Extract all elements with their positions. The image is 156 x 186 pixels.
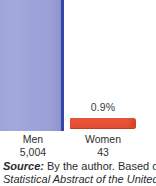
bar-women	[70, 118, 136, 129]
bar-women-end-shading	[128, 118, 136, 129]
category-name-men: Men	[2, 133, 64, 146]
category-value-men: 5,004	[2, 146, 64, 159]
bar-women-percent-label: 0.9%	[70, 101, 136, 113]
source-line-2-text: Statistical Abstract of the United	[3, 173, 156, 186]
category-name-women: Women	[70, 133, 136, 146]
bar-men	[0, 0, 63, 131]
chart-figure-crop: 0.9% Men 5,004 Women 43 Source: By the a…	[0, 0, 156, 185]
bar-men-right-edge	[61, 0, 64, 131]
source-note: Source: By the author. Based on Statisti…	[3, 160, 156, 185]
source-line-1: Source: By the author. Based on	[3, 160, 156, 173]
source-line-1-text: By the author. Based on	[44, 160, 156, 172]
chart-plot-area: 0.9%	[0, 0, 156, 131]
source-lead-label: Source:	[3, 160, 44, 172]
category-label-women: Women 43	[70, 133, 136, 159]
category-value-women: 43	[70, 146, 136, 159]
category-label-men: Men 5,004	[2, 133, 64, 159]
